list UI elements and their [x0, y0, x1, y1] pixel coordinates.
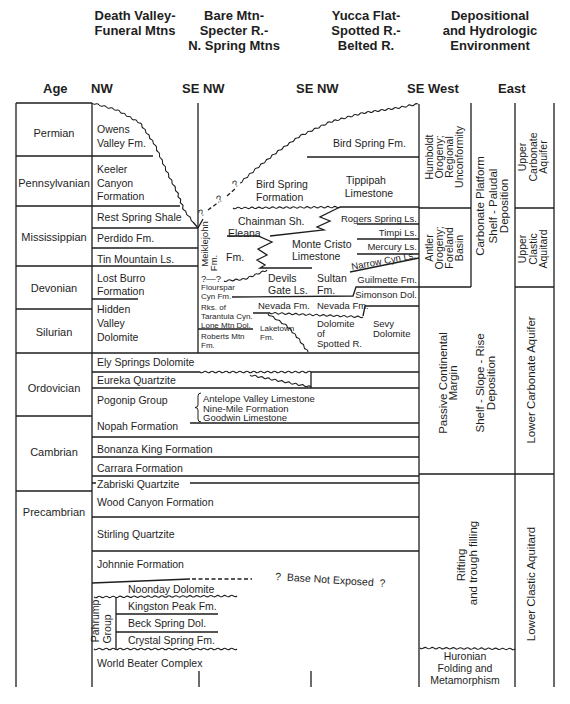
unit-keeler-canyon: Canyon [97, 177, 133, 189]
unit-sultan: Sultan [317, 272, 347, 284]
header-line: Specter R.- [200, 23, 269, 38]
header-line: Death Valley- [95, 8, 176, 23]
unit-laketown: Laketown [260, 324, 294, 333]
unit-meiklejohn: Fm. [208, 255, 219, 271]
unit-eureka: Eureka Quartzite [97, 374, 176, 386]
query-mark: ? [230, 178, 241, 190]
nevada-base-unconformity [270, 312, 363, 317]
header-line: Funeral Mtns [95, 23, 176, 38]
orientation-nw: NW [91, 81, 113, 96]
env-rifting: and trough filling [467, 521, 479, 605]
env-carbonate-platform: Carbonate Platform [474, 156, 486, 256]
unit-bird-spring-formation: Formation [256, 191, 303, 203]
unit-roberts-mtn: Fm. [201, 341, 215, 350]
hydrologic-units: Upper Carbonate Aquifer Upper Clastic Aq… [516, 132, 549, 641]
unit-devils-gate: Gate Ls. [268, 284, 308, 296]
unit-tarantula: Tarantula Cyn. [201, 312, 253, 321]
eleana-base-unconformity [224, 270, 267, 282]
unit-keeler-canyon: Formation [97, 190, 144, 202]
age-silurian: Silurian [36, 326, 73, 338]
unit-hidden-valley: Valley [97, 317, 126, 329]
query-mark: ? [214, 193, 225, 205]
unit-stirling: Stirling Quartzite [97, 528, 175, 540]
unit-world-beater: World Beater Complex [97, 657, 203, 669]
unit-simonson: Simonson Dol. [355, 289, 417, 300]
unit-flourspar: Flourspar [201, 283, 235, 292]
hydro-upper-carbonate-aquifer: Aquifer [537, 140, 549, 174]
unit-timpi: Timpi Ls. [379, 227, 417, 238]
env-huronian: Huronian [444, 650, 487, 662]
header-line: Environment [450, 38, 530, 53]
age-pennsylvanian: Pennsylvanian [18, 177, 90, 189]
unit-bonanza-king: Bonanza King Formation [97, 443, 213, 455]
env-shelf-slope-rise: Deposition [485, 356, 497, 410]
unit-monte-cristo: Monte Cristo [292, 238, 352, 250]
unit-sevy: Dolomite [373, 328, 411, 339]
env-passive-margin: Margin [447, 365, 459, 400]
unit-devils-gate: Devils [268, 272, 297, 284]
unit-narrow-cyn: Narrow Cyn Ls. [350, 249, 416, 272]
unit-zabriski: Zabriski Quartzite [97, 478, 179, 490]
age-column-label: Age [43, 81, 68, 96]
owens-valley-unconformity-end [193, 222, 198, 228]
header-line: and Hydrologic [443, 23, 538, 38]
header-yucca-flat: Yucca Flat- Spotted R.- Belted R. [331, 8, 400, 53]
age-devonian: Devonian [31, 282, 77, 294]
age-permian: Permian [34, 127, 75, 139]
unit-monte-cristo: Limestone [292, 250, 341, 262]
hydro-lower-carbonate-aquifer: Lower Carbonate Aquifer [525, 316, 537, 443]
unit-eleana: Fm. [226, 251, 244, 263]
unit-eleana: Eleana [228, 227, 261, 239]
unit-nevada-yucca: Nevada Fm. [317, 300, 369, 311]
hydro-lower-clastic-aquitard: Lower Clastic Aquitard [525, 527, 537, 641]
laketown-unconformity [268, 314, 308, 352]
unit-lone-mtn: Lone Mtn Dol. [201, 321, 251, 330]
unit-owens-valley: Valley Fm. [97, 137, 146, 149]
unit-perdido: Perdido Fm. [97, 232, 154, 244]
env-huronian: Metamorphism [430, 674, 500, 686]
unit-johnnie: Johnnie Formation [97, 558, 184, 570]
unit-tippipah: Tippipah [346, 174, 386, 186]
env-rifting: Rifting [455, 549, 467, 582]
age-mississippian: Mississippian [21, 231, 86, 243]
unit-pogonip: Pogonip Group [97, 394, 168, 406]
base-not-exposed-note: ? Base Not Exposed ? [275, 570, 386, 589]
depositional-environment: Humboldt Orogeny; Regional Unconformity … [423, 125, 510, 686]
unit-goodwin: Goodwin Limestone [203, 412, 287, 423]
orientation-labels: Age NW SE NW SE NW SE West East [43, 81, 526, 96]
unit-owens-valley: Owens [97, 123, 130, 135]
env-humboldt: Unconformity [453, 125, 465, 188]
unit-nopah: Nopah Formation [97, 420, 178, 432]
unit-lost-burro: Formation [97, 285, 144, 297]
unit-tippipah: Limestone [345, 187, 394, 199]
orientation-se-nw-2: SE NW [296, 81, 339, 96]
hydro-upper-clastic-aquitard: Aquitard [537, 229, 549, 268]
bottom-ticks [199, 671, 311, 687]
unit-chainman: Chainman Sh. [238, 215, 305, 227]
unit-kingston-peak: Kingston Peak Fm. [128, 600, 217, 612]
unit-pahrump-group: Pahrump [89, 600, 101, 643]
unit-sultan: Fm. [317, 284, 335, 296]
header-environment: Depositional and Hydrologic Environment [443, 8, 538, 53]
unit-hidden-valley: Hidden [97, 303, 130, 315]
header-line: N. Spring Mtns [188, 38, 280, 53]
ely-springs-unconformity [200, 371, 311, 372]
unit-rogers-spring: Rogers Spring Ls. [341, 213, 417, 224]
unit-tarantula: Rks. of [201, 303, 227, 312]
header-bare-mountain: Bare Mtn- Specter R.- N. Spring Mtns [188, 8, 280, 53]
orientation-se-nw-1: SE NW [182, 81, 225, 96]
pahrump-top-unconformity [94, 595, 237, 597]
header-line: Yucca Flat- [332, 8, 401, 23]
unit-tin-mountain: Tin Mountain Ls. [97, 253, 174, 265]
unit-crystal-spring: Crystal Spring Fm. [128, 634, 215, 646]
unit-ely-springs: Ely Springs Dolomite [97, 356, 195, 368]
unit-hidden-valley: Dolomite [97, 331, 139, 343]
unit-bird-spring-formation: Bird Spring [256, 178, 308, 190]
bare-mountain-units: Bird Spring Formation Chainman Sh. Elean… [196, 178, 310, 350]
stratigraphic-correlation-chart: Death Valley- Funeral Mtns Bare Mtn- Spe… [0, 0, 570, 704]
pogonip-members: Antelope Valley Limestone Nine-Mile Form… [203, 393, 315, 423]
unit-lost-burro: Lost Burro [97, 272, 146, 284]
env-antler: Basin [453, 235, 465, 261]
header-line: Spotted R.- [331, 23, 400, 38]
unit-dolomite-spotted: Spotted R. [317, 338, 362, 349]
